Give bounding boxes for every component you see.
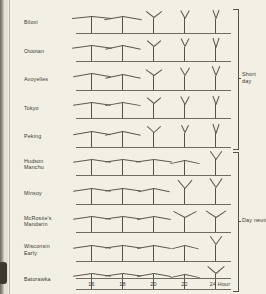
x-axis-line (76, 278, 231, 279)
plant-stem (184, 188, 185, 203)
plant-branch (170, 245, 184, 249)
plant-branch (104, 245, 122, 249)
variety-row: HudsonManchu (19, 151, 266, 180)
row-baseline (76, 33, 231, 34)
variety-label-line: Avoyelles (24, 76, 76, 83)
row-baseline (76, 289, 231, 290)
figure-frame: BiloxiOtootanAvoyellesTokyoPekingHudsonM… (9, 0, 266, 294)
group-label: Shortday (242, 71, 256, 85)
plant-stem (184, 217, 185, 232)
x-axis-tick-label: 16 (88, 281, 94, 287)
plant-stem (215, 47, 216, 61)
plant-branch (215, 236, 222, 245)
variety-label-line: Tokyo (24, 105, 76, 112)
plant-stem (122, 46, 123, 61)
plant-stem (122, 17, 123, 33)
plant-branch (104, 188, 122, 192)
variety-label-line: Early (24, 250, 76, 257)
variety-label: Biloxi (24, 19, 76, 26)
variety-row: Batorawka (19, 265, 266, 294)
variety-row: McRostie'sMandarin (19, 208, 266, 237)
plant-branch (184, 125, 188, 133)
plant-stem (153, 75, 154, 89)
plant-branch (184, 39, 189, 47)
group-label-line: day (242, 78, 256, 85)
plant-stem (153, 18, 154, 33)
plant-branch (72, 45, 92, 49)
plant-branch (153, 216, 170, 220)
variety-label-line: Otootan (24, 48, 76, 55)
variety-row: Peking (19, 122, 266, 151)
group-bracket-tick (238, 221, 241, 222)
plant-stem (184, 133, 185, 147)
plant-branch (104, 45, 122, 50)
plant-stem (184, 76, 185, 90)
plant-branch (72, 102, 91, 106)
plant-branch (153, 97, 161, 104)
plant-branch (137, 188, 153, 192)
plant-stem (153, 132, 154, 146)
plant-branch (122, 131, 139, 136)
plant-stem (184, 160, 185, 175)
plant-branch (153, 69, 162, 76)
plant-branch (105, 131, 122, 136)
row-baseline (76, 261, 231, 262)
plant-branch (215, 124, 219, 134)
plant-branch (153, 12, 161, 19)
plant-branch (136, 245, 153, 249)
plant-branch (104, 159, 122, 163)
plant-branch (122, 74, 140, 79)
plant-branch (184, 211, 196, 218)
plant-stem (153, 47, 154, 61)
row-baseline (76, 61, 231, 62)
group-label-line: Day neutral (242, 217, 266, 224)
plant-branch (184, 10, 189, 18)
plant-branch (173, 211, 185, 218)
plant-branch (146, 97, 154, 104)
plant-stem (153, 245, 154, 260)
group-bracket-tick (238, 78, 241, 79)
plant-branch (146, 12, 154, 19)
plant-stem (184, 47, 185, 61)
plant-stem (91, 160, 92, 175)
plant-stem (215, 188, 216, 204)
variety-label-line: Wisconsin (24, 243, 76, 250)
plant-stem (122, 217, 123, 232)
variety-label-line: Minsoy (24, 190, 76, 197)
plant-branch (153, 40, 161, 47)
row-baseline (76, 90, 231, 91)
variety-label: Otootan (24, 48, 76, 55)
plant-stem (91, 102, 92, 118)
plant-branch (104, 273, 122, 277)
plant-stem (153, 160, 154, 175)
row-baseline (76, 232, 231, 233)
plant-branch (184, 245, 198, 249)
variety-label-line: Peking (24, 133, 76, 140)
plant-branch (170, 160, 185, 164)
plant-stem (91, 74, 92, 90)
plant-stem (91, 245, 92, 260)
row-baseline (76, 204, 231, 205)
plant-branch (73, 188, 92, 192)
plant-branch (105, 102, 123, 106)
plant-branch (153, 159, 171, 162)
group-label: Day neutral (242, 217, 266, 224)
variety-label: Batorawka (24, 276, 76, 283)
plant-stem (153, 188, 154, 203)
plant-branch (122, 102, 140, 106)
plant-stem (215, 133, 216, 146)
plant-branch (184, 180, 192, 189)
plant-branch (71, 16, 91, 19)
plant-branch (184, 68, 189, 76)
x-axis-tick-label: 22 (181, 281, 187, 287)
plant-branch (104, 216, 122, 220)
group-bracket (233, 9, 239, 150)
variety-label-line: Manchu (24, 164, 76, 171)
row-baseline (76, 147, 231, 148)
plant-stem (215, 245, 216, 261)
plant-stem (91, 45, 92, 61)
plant-branch (215, 67, 220, 76)
plant-branch (215, 38, 219, 48)
plant-stem (122, 74, 123, 89)
plant-branch (122, 45, 140, 50)
